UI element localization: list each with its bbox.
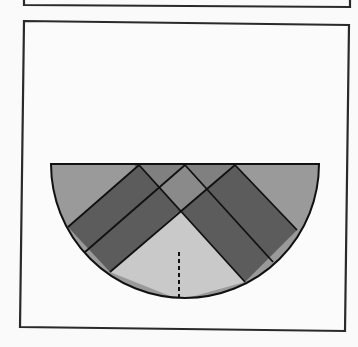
top-frame	[24, 0, 350, 7]
diagram-canvas	[0, 0, 358, 347]
